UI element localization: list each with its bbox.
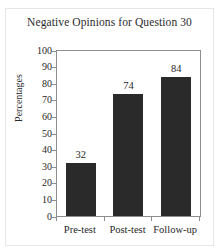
x-axis-category-label: Post-test (109, 224, 145, 236)
y-axis-tick-label: 80 (26, 79, 52, 89)
x-axis-category-label: Follow-up (153, 224, 197, 236)
x-axis-tick-mark (199, 217, 200, 221)
y-axis-tick-label: 60 (26, 112, 52, 122)
x-axis-tick-mark (151, 217, 152, 221)
bar (113, 94, 143, 216)
y-axis-tick-label: 40 (26, 145, 52, 155)
x-axis-category-labels: Pre-testPost-testFollow-up (56, 224, 201, 240)
bar-value-label: 84 (171, 63, 182, 74)
y-axis-tick-label: 90 (26, 62, 52, 72)
x-axis-tick-marks (56, 217, 201, 222)
bar-value-label: 74 (123, 80, 134, 91)
y-axis-tick-label: 20 (26, 178, 52, 188)
bar-group: 32 (57, 51, 105, 216)
x-axis-category-label: Pre-test (64, 224, 96, 236)
y-axis-tick-label: 100 (26, 46, 52, 56)
y-axis-tick-labels: 1009080706050403020100 (26, 50, 52, 217)
chart-page: Negative Opinions for Question 30 Percen… (0, 0, 219, 250)
bar-group: 84 (152, 51, 200, 216)
y-axis-tick-label: 10 (26, 195, 52, 205)
y-axis-title: Percentages (13, 84, 24, 98)
y-axis-tick-label: 50 (26, 129, 52, 139)
bar-value-label: 32 (76, 149, 87, 160)
x-axis-tick-mark (104, 217, 105, 221)
bar-group: 74 (105, 51, 153, 216)
bar (66, 163, 96, 216)
y-axis-tick-label: 30 (26, 162, 52, 172)
y-axis-title-label: Percentages (13, 74, 24, 122)
y-axis-tick-label: 0 (26, 212, 52, 222)
bar (161, 77, 191, 216)
chart-title: Negative Opinions for Question 30 (0, 16, 219, 28)
x-axis-tick-mark (56, 217, 57, 221)
y-axis-tick-label: 70 (26, 95, 52, 105)
bar-series: 327484 (57, 51, 200, 216)
